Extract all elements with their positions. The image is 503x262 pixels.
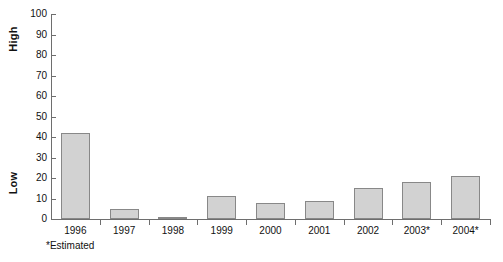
- bar-2001: [305, 201, 334, 219]
- x-axis-tick-label: 1997: [100, 225, 149, 237]
- x-axis-tick-label: 2000: [246, 225, 295, 237]
- bar-1997: [110, 209, 139, 219]
- y-axis-tick-label: 50: [21, 112, 47, 122]
- y-axis-tick-label: 10: [21, 194, 47, 204]
- y-axis-tick-label: 20: [21, 173, 47, 183]
- bar-2000: [256, 203, 285, 219]
- bar-1996: [61, 133, 90, 219]
- y-axis-tick-label: 80: [21, 50, 47, 60]
- y-axis-tick-label: 100: [21, 9, 47, 19]
- x-axis-tick-label: 1996: [51, 225, 100, 237]
- y-axis-tick-label: 0: [21, 214, 47, 224]
- x-axis-tick-label: 2001: [295, 225, 344, 237]
- y-axis-labels: 1009080706050403020100: [18, 0, 47, 262]
- x-axis-tick-label: 2004*: [441, 225, 490, 237]
- x-axis-tick: [490, 220, 491, 225]
- y-axis-tick-label: 60: [21, 91, 47, 101]
- x-axis-line: [51, 219, 491, 220]
- bar-2002: [354, 188, 383, 219]
- x-axis-tick-label: 1998: [149, 225, 198, 237]
- x-axis-tick-label: 2003*: [392, 225, 441, 237]
- x-axis-tick-label: 2002: [344, 225, 393, 237]
- bar-chart: High Low 1009080706050403020100 19961997…: [0, 0, 503, 262]
- bar-1999: [207, 196, 236, 219]
- bar-2004-est: [451, 176, 480, 219]
- y-axis-tick-label: 30: [21, 153, 47, 163]
- y-axis-tick-label: 40: [21, 132, 47, 142]
- bar-1998: [158, 217, 187, 219]
- x-axis-tick-label: 1999: [197, 225, 246, 237]
- y-axis-tick: [51, 219, 56, 220]
- bar-2003-est: [402, 182, 431, 219]
- y-axis-tick-label: 90: [21, 30, 47, 40]
- y-axis-tick-label: 70: [21, 71, 47, 81]
- plot-area: [51, 14, 490, 219]
- chart-footnote: *Estimated: [46, 240, 94, 251]
